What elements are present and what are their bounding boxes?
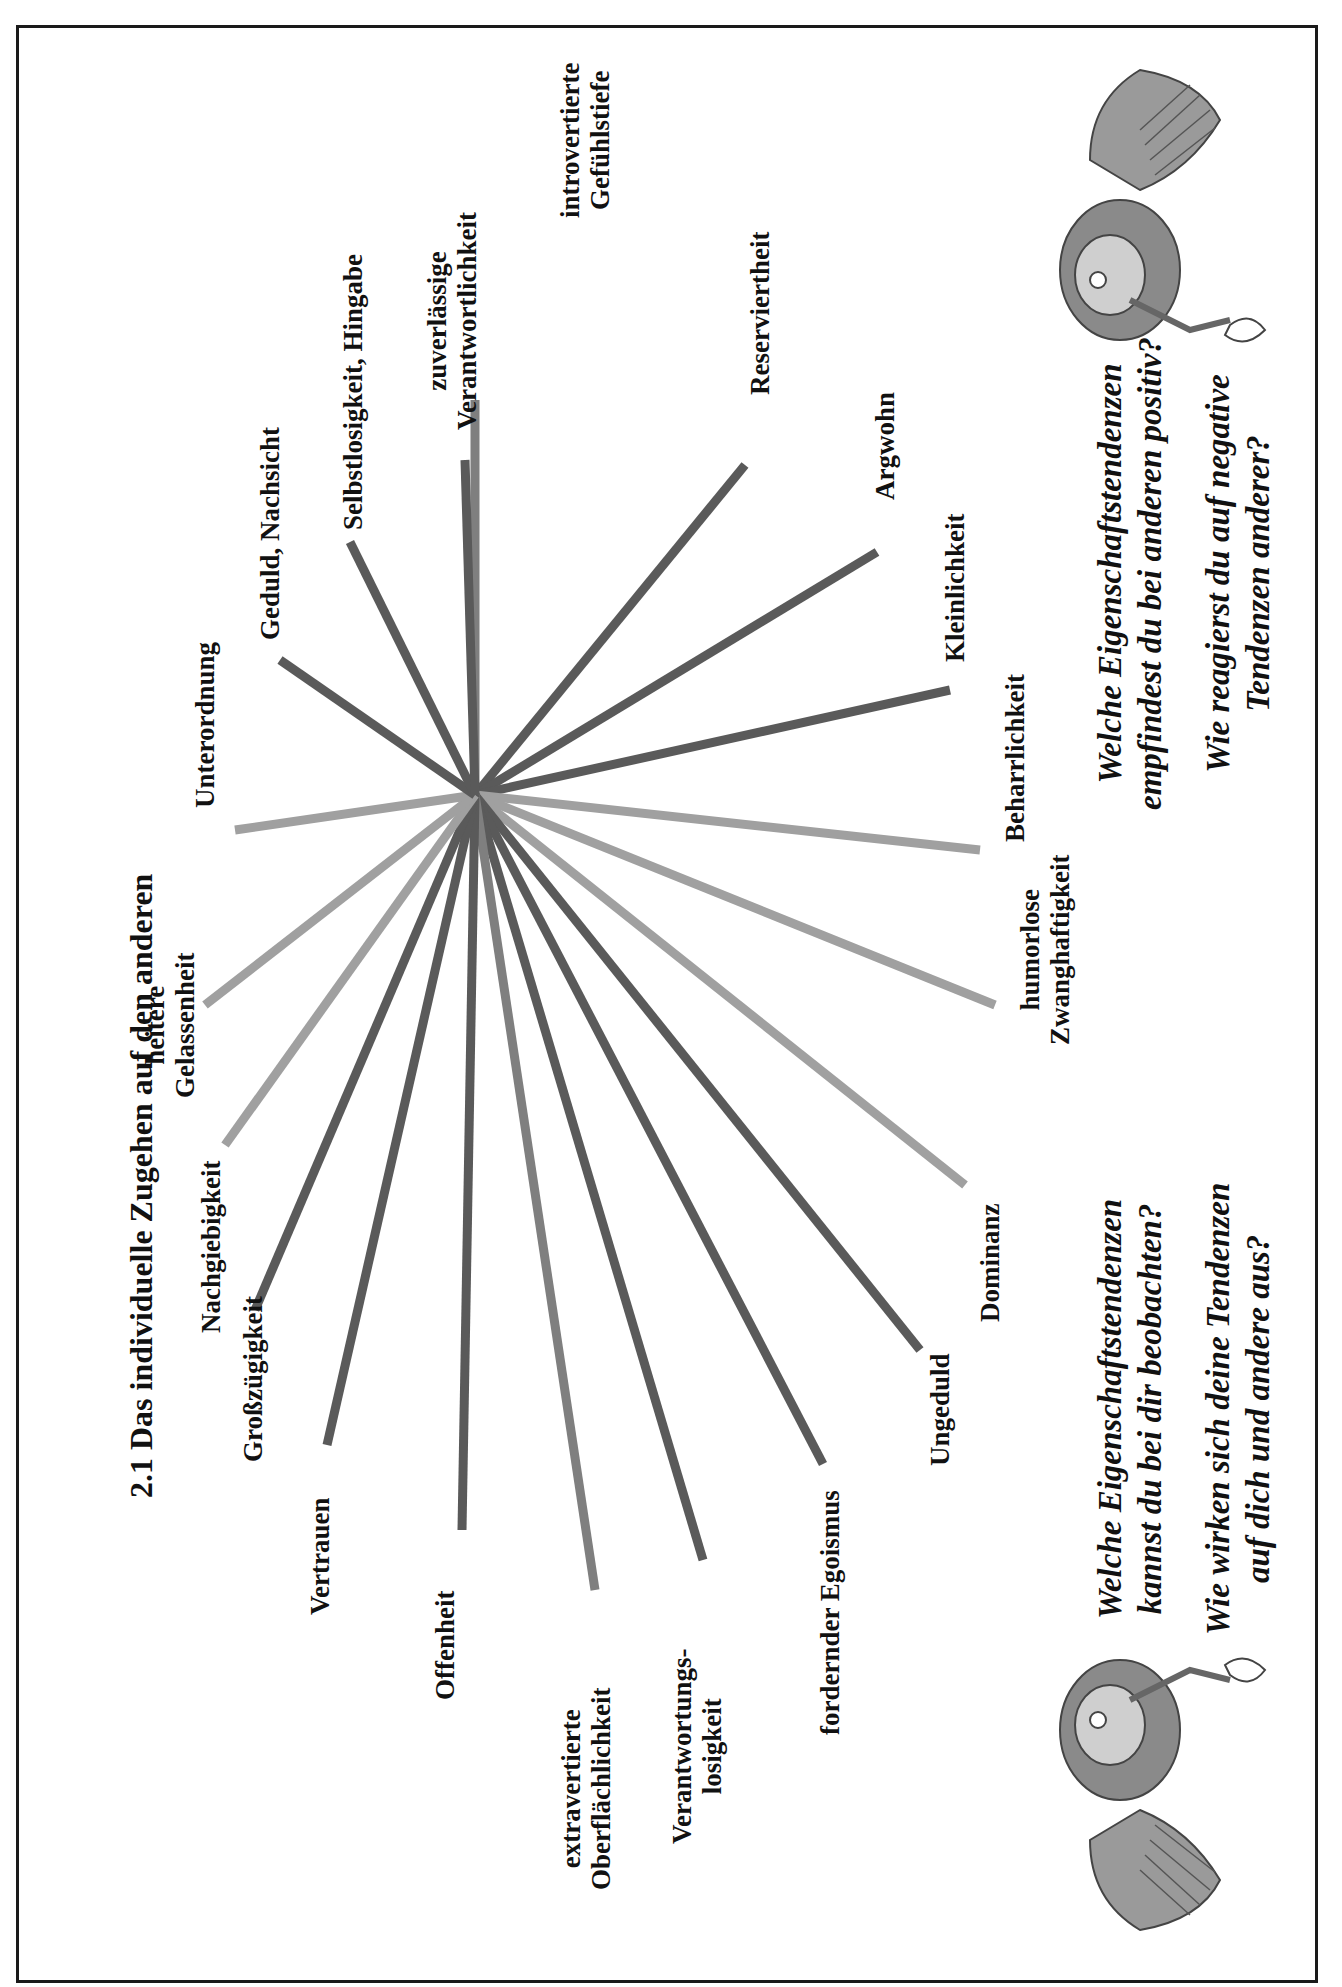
question-others-1-line-1: Welche Eigenschaftstendenzen	[1090, 337, 1130, 810]
spoke-line	[475, 795, 703, 1560]
label-reserviertheit: Reserviertheit	[745, 232, 775, 395]
label-humorlose-zwanghaftigkeit: humorlose Zwanghaftigkeit	[1015, 854, 1075, 1045]
label-heitere-gelassenheit: heitere Gelassenheit	[140, 953, 200, 1099]
question-self-1-line-2: kannst du bei dir beobachten?	[1130, 1183, 1170, 1635]
label-line: Oberflächlichkeit	[586, 1688, 616, 1890]
label-grosszuegigkeit: Großzügigkeit	[238, 1296, 268, 1462]
label-fordernder-egoismus: fordernder Egoismus	[815, 1490, 845, 1735]
label-selbstlosigkeit-hingabe: Selbstlosigkeit, Hingabe	[338, 254, 368, 530]
label-line: Verantwortungs-	[667, 1649, 697, 1845]
spoke-line	[462, 795, 475, 1530]
question-self-2-line-1: Wie wirken sich deine Tendenzen	[1198, 1183, 1238, 1635]
label-argwohn: Argwohn	[870, 392, 900, 500]
label-beharrlichkeit: Beharrlichkeit	[1000, 674, 1030, 842]
gardener-illustration-top	[1050, 60, 1280, 360]
label-line: Gelassenheit	[170, 953, 200, 1099]
question-block-self: Welche Eigenschaftstendenzen kannst du b…	[1090, 1183, 1278, 1635]
label-unterordnung: Unterordnung	[190, 642, 220, 808]
label-line: Verantwortlichkeit	[452, 212, 482, 430]
spoke-line	[475, 552, 877, 795]
label-line: Gefühlstiefe	[585, 63, 615, 218]
label-line: introvertierte	[555, 63, 585, 218]
label-line: Zwanghaftigkeit	[1045, 854, 1075, 1045]
label-kleinlichkeit: Kleinlichkeit	[940, 514, 970, 663]
label-line: humorlose	[1015, 854, 1045, 1045]
label-vertrauen: Vertrauen	[305, 1498, 335, 1615]
label-line: zuverlässige	[422, 212, 452, 430]
question-block-others: Welche Eigenschaftstendenzen empfindest …	[1090, 337, 1278, 810]
label-line: losigkeit	[697, 1649, 727, 1845]
label-nachgiebigkeit: Nachgiebigkeit	[196, 1161, 226, 1334]
label-dominanz: Dominanz	[975, 1203, 1005, 1322]
label-introvertierte-gefuehlstiefe: introvertierte Gefühlstiefe	[555, 63, 615, 218]
label-line: heitere	[140, 953, 170, 1099]
label-extravertierte-oberflaechlichkeit: extravertierte Oberflächlichkeit	[556, 1688, 616, 1890]
question-others-2-line-1: Wie reagierst du auf negative	[1198, 337, 1238, 810]
label-zuverlaessige-verantwortlichkeit: zuverlässige Verantwortlichkeit	[422, 212, 482, 430]
spoke-line	[475, 795, 965, 1185]
question-others-1-line-2: empfindest du bei anderen positiv?	[1130, 337, 1170, 810]
label-line: extravertierte	[556, 1688, 586, 1890]
label-offenheit: Offenheit	[430, 1591, 460, 1700]
gardener-illustration-bottom	[1050, 1640, 1280, 1940]
question-self-1-line-1: Welche Eigenschaftstendenzen	[1090, 1183, 1130, 1635]
label-ungeduld: Ungeduld	[925, 1353, 955, 1466]
label-geduld-nachsicht: Geduld, Nachsicht	[255, 427, 285, 640]
label-verantwortungslosigkeit: Verantwortungs- losigkeit	[667, 1649, 727, 1845]
question-others-2-line-2: Tendenzen anderer?	[1238, 337, 1278, 810]
question-self-2-line-2: auf dich und andere aus?	[1238, 1183, 1278, 1635]
